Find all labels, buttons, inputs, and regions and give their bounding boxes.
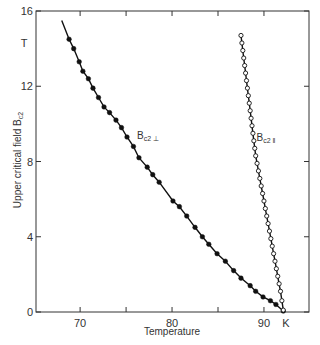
data-point xyxy=(268,298,273,303)
data-point xyxy=(157,180,162,185)
data-point xyxy=(243,63,247,67)
data-point xyxy=(266,221,270,225)
data-point xyxy=(137,155,142,160)
data-point xyxy=(260,191,264,195)
data-point xyxy=(246,94,250,98)
data-point xyxy=(96,95,101,100)
data-point xyxy=(280,299,284,303)
x-axis-title: Temperature xyxy=(144,326,201,337)
data-point xyxy=(253,146,257,150)
data-point xyxy=(249,116,253,120)
data-point xyxy=(263,206,267,210)
data-point xyxy=(245,86,249,90)
data-point xyxy=(278,289,282,293)
x-axis-unit: K xyxy=(282,317,290,329)
data-point xyxy=(277,282,281,286)
y-axis-title-main: Upper critical field B xyxy=(12,119,23,208)
data-point xyxy=(71,46,76,51)
data-point xyxy=(125,135,130,140)
data-point xyxy=(239,33,243,37)
data-point xyxy=(102,105,107,110)
data-point xyxy=(119,125,124,130)
data-point xyxy=(267,229,271,233)
x-tick-label: 70 xyxy=(74,317,86,329)
data-point xyxy=(262,199,266,203)
data-point xyxy=(244,79,248,83)
data-point xyxy=(241,48,245,52)
data-point xyxy=(256,169,260,173)
y-tick-label: 12 xyxy=(21,80,33,92)
data-point xyxy=(193,225,198,230)
data-point xyxy=(207,242,212,247)
series-label: Bc2 ⊥ xyxy=(137,130,159,142)
data-point xyxy=(276,274,280,278)
data-point xyxy=(251,131,255,135)
y-tick-label: 8 xyxy=(27,156,33,168)
data-point xyxy=(258,176,262,180)
data-point xyxy=(270,244,274,248)
data-point xyxy=(200,234,205,239)
data-point xyxy=(240,41,244,45)
y-tick-label: 4 xyxy=(27,231,33,243)
data-point xyxy=(243,71,247,75)
data-point xyxy=(252,139,256,143)
data-point xyxy=(131,144,136,149)
data-point xyxy=(177,204,182,209)
y-tick-label: 0 xyxy=(27,306,33,318)
data-point xyxy=(77,59,82,64)
data-point xyxy=(242,56,246,60)
data-point xyxy=(145,165,150,170)
data-point xyxy=(114,118,119,123)
series-bc2-perp xyxy=(62,20,286,313)
series-layer: Bc2 ⊥Bc2 ‖ xyxy=(62,20,286,313)
data-point xyxy=(150,172,155,177)
series-label-sub: c2 ‖ xyxy=(263,137,275,144)
data-point xyxy=(254,154,258,158)
series-bc2-parallel xyxy=(239,33,285,312)
data-point xyxy=(265,214,269,218)
data-point xyxy=(253,289,258,294)
series-label: Bc2 ‖ xyxy=(257,132,276,144)
y-axis-title: Upper critical field Bc2 xyxy=(12,112,24,208)
data-point xyxy=(274,302,279,307)
data-point xyxy=(248,283,253,288)
y-axis-unit: T xyxy=(21,37,28,49)
data-point xyxy=(261,295,266,300)
series-label-sub: c2 ⊥ xyxy=(144,135,159,142)
x-tick-label: 90 xyxy=(258,317,270,329)
series-line xyxy=(62,20,284,311)
chart: 7080900481216 Bc2 ⊥Bc2 ‖ Temperature K T… xyxy=(0,0,320,345)
y-tick-label: 16 xyxy=(21,5,33,17)
data-point xyxy=(255,161,259,165)
data-point xyxy=(107,110,112,115)
data-point xyxy=(269,237,273,241)
data-point xyxy=(171,199,176,204)
data-point xyxy=(259,184,263,188)
data-point xyxy=(281,308,285,312)
data-point xyxy=(274,267,278,271)
data-point xyxy=(273,259,277,263)
data-point xyxy=(231,268,236,273)
data-point xyxy=(67,37,72,42)
data-point xyxy=(81,69,86,74)
data-point xyxy=(247,101,251,105)
data-point xyxy=(184,214,189,219)
y-axis-title-sub: c2 xyxy=(17,112,24,120)
data-point xyxy=(248,109,252,113)
data-point xyxy=(91,86,96,91)
data-point xyxy=(239,276,244,281)
data-point xyxy=(272,252,276,256)
data-point xyxy=(223,259,228,264)
data-point xyxy=(86,76,91,81)
data-point xyxy=(250,124,254,128)
data-point xyxy=(215,251,220,256)
